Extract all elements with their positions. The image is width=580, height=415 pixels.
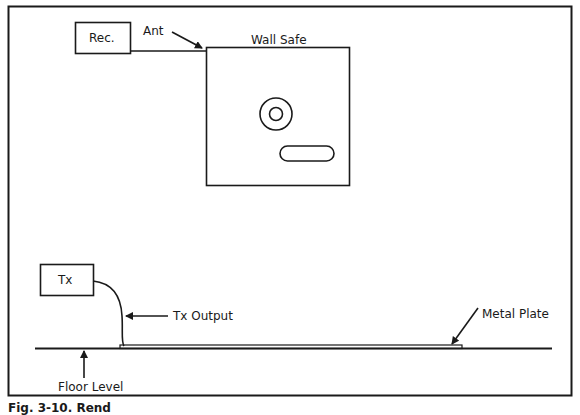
- metal-plate-label: Metal Plate: [482, 308, 549, 320]
- metal-plate-arrow-icon: [452, 308, 478, 344]
- figure-frame: [9, 7, 572, 396]
- safe-dial-outer-icon: [260, 98, 292, 130]
- wall-safe-box: [207, 48, 350, 186]
- safe-handle-slot-icon: [280, 146, 334, 161]
- transmitter-label: Tx: [58, 274, 72, 286]
- antenna-label: Ant: [143, 25, 164, 37]
- tx-output-cable: [93, 281, 124, 346]
- antenna-arrow-icon: [172, 32, 202, 48]
- metal-plate: [120, 345, 462, 349]
- floor-level-label: Floor Level: [58, 381, 123, 393]
- receiver-label: Rec.: [89, 32, 115, 44]
- tx-output-label: Tx Output: [173, 310, 233, 322]
- figure-caption: Fig. 3-10. Rend: [8, 402, 111, 414]
- wall-safe-label: Wall Safe: [251, 34, 307, 46]
- safe-dial-inner-icon: [270, 108, 283, 121]
